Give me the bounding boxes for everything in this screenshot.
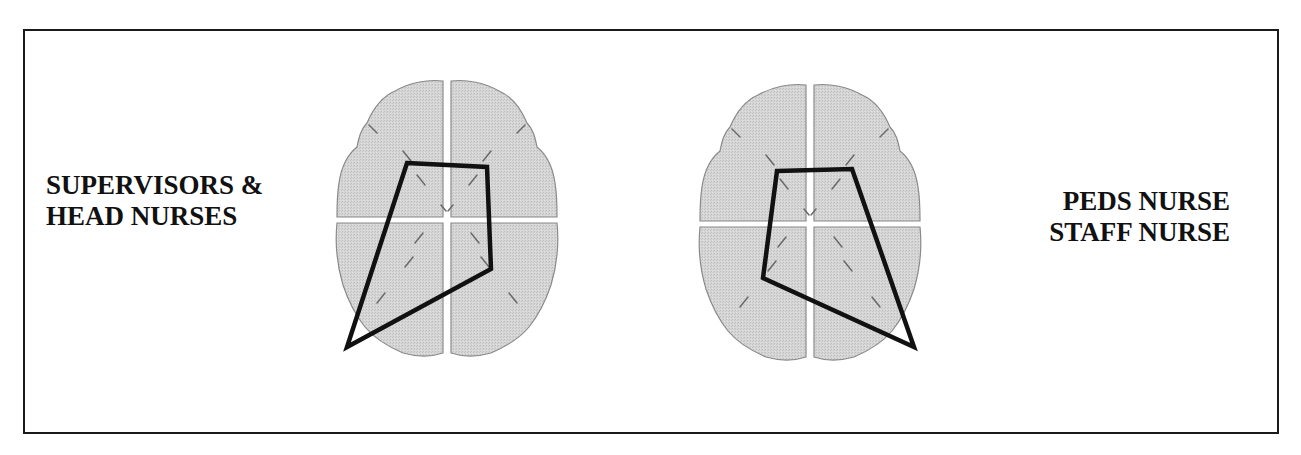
right-brain-map bbox=[699, 84, 921, 360]
left-brain-map bbox=[336, 80, 558, 356]
brain-diagrams bbox=[0, 0, 1301, 455]
